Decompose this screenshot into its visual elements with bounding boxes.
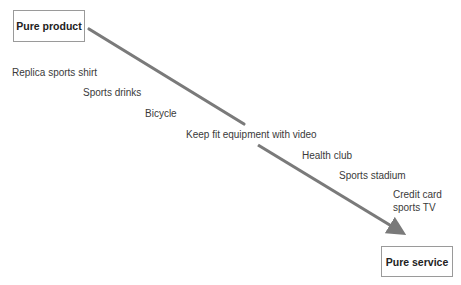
pure-service-label: Pure service: [386, 256, 448, 268]
item-credit-card-line1: Credit card: [393, 188, 442, 201]
item-credit-card-sports-tv: Credit card sports TV: [393, 188, 442, 214]
continuum-arrow: [0, 0, 461, 285]
item-sports-stadium: Sports stadium: [339, 169, 406, 182]
item-keep-fit-equipment: Keep fit equipment with video: [186, 128, 317, 141]
pure-product-box: Pure product: [13, 10, 85, 42]
pure-service-box: Pure service: [381, 246, 453, 277]
pure-product-label: Pure product: [16, 20, 81, 32]
item-replica-sports-shirt: Replica sports shirt: [12, 66, 97, 79]
item-credit-card-line2: sports TV: [393, 201, 442, 214]
item-sports-drinks: Sports drinks: [83, 86, 141, 99]
item-bicycle: Bicycle: [145, 107, 177, 120]
item-health-club: Health club: [302, 149, 352, 162]
